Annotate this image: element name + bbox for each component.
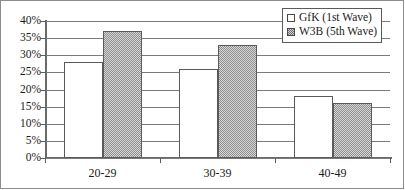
x-axis-tick <box>160 158 161 163</box>
y-axis-tick <box>40 90 46 91</box>
x-axis-tick <box>275 158 276 163</box>
x-axis-category-label: 30-39 <box>160 167 275 179</box>
x-axis-category-label: 40-49 <box>275 167 390 179</box>
chart-frame: 40%35%30%25%20%15%10%5%0% GfK (1st Wave)… <box>0 0 404 189</box>
y-axis-tick-label: 20% <box>1 84 41 96</box>
y-axis-tick-label: 0% <box>1 152 41 164</box>
gridline <box>45 158 390 159</box>
y-axis-tick-label: 15% <box>1 101 41 113</box>
y-axis-tick <box>40 124 46 125</box>
bar-20-29-w3b <box>103 31 142 158</box>
x-axis-tick <box>390 158 391 163</box>
y-axis-tick-label: 35% <box>1 32 41 44</box>
bar-30-39-gfk <box>179 69 218 158</box>
y-axis-tick-label: 25% <box>1 66 41 78</box>
y-axis-tick <box>40 141 46 142</box>
legend-label-w3b: W3B (5th Wave) <box>299 26 377 38</box>
y-axis-tick <box>40 38 46 39</box>
y-axis-tick-label: 30% <box>1 49 41 61</box>
y-axis-tick <box>40 72 46 73</box>
y-axis-tick-label: 5% <box>1 135 41 147</box>
legend-swatch-icon-w3b <box>287 28 295 36</box>
bar-40-49-gfk <box>294 96 333 158</box>
legend-swatch-icon-gfk <box>287 14 295 22</box>
bar-20-29-gfk <box>64 62 103 158</box>
y-axis-tick-label: 40% <box>1 15 41 27</box>
y-axis-tick <box>40 107 46 108</box>
x-axis-tick <box>45 158 46 163</box>
legend-entry-w3b: W3B (5th Wave) <box>287 25 377 39</box>
bar-40-49-w3b <box>333 103 372 158</box>
chart-legend: GfK (1st Wave) W3B (5th Wave) <box>282 8 382 43</box>
legend-label-gfk: GfK (1st Wave) <box>299 12 372 24</box>
y-axis-tick <box>40 55 46 56</box>
bar-30-39-w3b <box>218 45 257 158</box>
y-axis-tick <box>40 21 46 22</box>
y-axis-tick-label: 10% <box>1 118 41 130</box>
legend-entry-gfk: GfK (1st Wave) <box>287 11 377 25</box>
x-axis-category-label: 20-29 <box>45 167 160 179</box>
